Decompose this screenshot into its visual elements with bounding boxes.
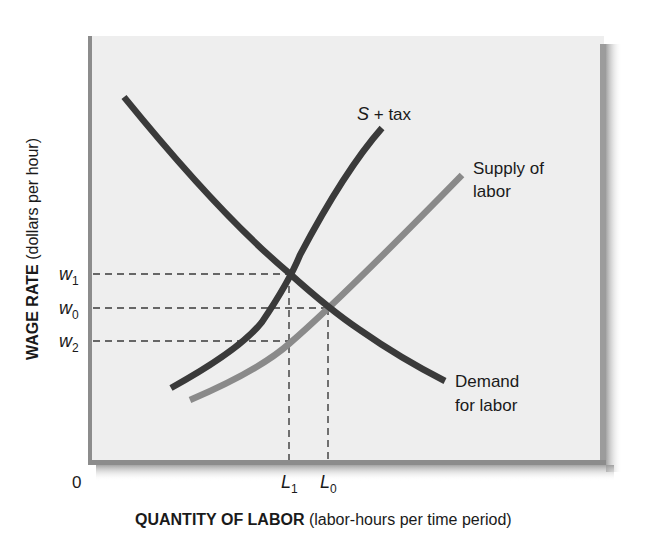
y-tick-w0: w0 — [59, 298, 79, 322]
s-tax-label: S + tax — [357, 104, 412, 124]
x-axis-label: QUANTITY OF LABOR (labor-hours per time … — [135, 511, 512, 529]
x-axis-label-units: (labor-hours per time period) — [304, 511, 511, 528]
panel-shadow-right — [606, 44, 622, 472]
plot-area — [90, 36, 604, 462]
y-tick-w1: w1 — [59, 264, 79, 288]
panel-shadow-bottom — [96, 465, 614, 481]
labor-market-tax-chart: S + tax Supply of labor Demand for labor… — [0, 0, 647, 550]
x-axis — [88, 460, 606, 465]
origin-label: 0 — [72, 473, 81, 492]
y-axis-label-bold: WAGE RATE — [24, 264, 41, 360]
y-axis-label-units: (dollars per hour) — [24, 138, 41, 264]
y-axis-label: WAGE RATE (dollars per hour) — [24, 138, 42, 360]
x-axis-label-bold: QUANTITY OF LABOR — [135, 511, 304, 528]
panel-right-edge — [600, 44, 606, 464]
y-tick-w2: w2 — [59, 331, 79, 355]
y-axis — [88, 36, 92, 464]
